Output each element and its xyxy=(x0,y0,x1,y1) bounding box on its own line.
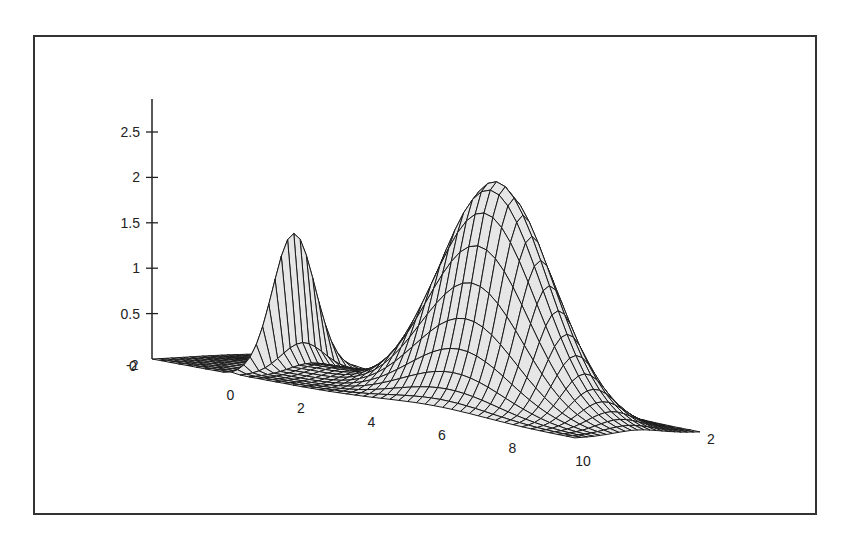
x-tick-label: 8 xyxy=(509,440,517,456)
x-tick-label: 6 xyxy=(438,427,446,443)
z-axis: 0.511.522.5 xyxy=(121,99,158,359)
x-tick-label: 2 xyxy=(297,400,305,416)
x-tick-label: 0 xyxy=(227,387,235,403)
z-tick-label: 1 xyxy=(132,260,140,276)
z-tick-label: 2.5 xyxy=(121,124,141,140)
z-tick-label: 0.5 xyxy=(121,306,141,322)
y-axis-tick-2: 2 xyxy=(707,431,715,447)
x-tick-label: 4 xyxy=(368,414,376,430)
surface-plot: 0.511.522.5 0246810 -2 0 2 xyxy=(0,0,846,542)
z-tick-label: 2 xyxy=(132,169,140,185)
origin-label-z: 0 xyxy=(129,358,137,374)
z-tick-label: 1.5 xyxy=(121,215,141,231)
x-tick-label: 10 xyxy=(575,453,591,469)
